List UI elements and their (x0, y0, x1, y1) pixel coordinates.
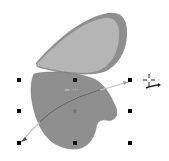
handle-top-right[interactable] (128, 78, 132, 82)
handle-top-middle[interactable] (73, 78, 77, 82)
curve-arrow-icon (146, 85, 158, 88)
handle-bottom-left[interactable] (17, 141, 21, 145)
drawing-canvas[interactable]: ≈ ··· (0, 0, 169, 161)
handle-middle-right[interactable] (128, 109, 132, 113)
crosshair-cursor-icon (143, 74, 161, 88)
handle-top-left[interactable] (17, 78, 21, 82)
selection-center-marker[interactable] (74, 110, 77, 113)
upper-leaf-shape[interactable] (36, 13, 127, 75)
handle-bottom-middle[interactable] (73, 141, 77, 145)
handle-bottom-right[interactable] (128, 141, 132, 145)
handle-middle-left[interactable] (17, 109, 21, 113)
